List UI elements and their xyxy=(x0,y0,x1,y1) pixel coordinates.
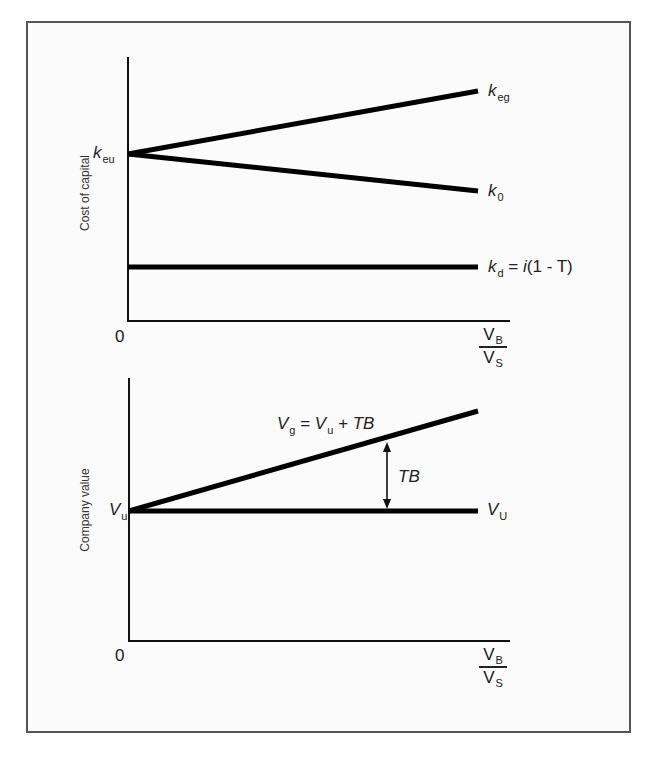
top-x-den-sub: S xyxy=(496,357,503,369)
top-x-num-sub: B xyxy=(496,334,503,346)
bottom-x-axis-label: VB VS xyxy=(478,646,508,687)
label-vg-v2: V xyxy=(315,414,326,433)
line-keg xyxy=(128,91,478,154)
bottom-x-den-main: V xyxy=(483,668,494,687)
label-vg-tail: + TB xyxy=(333,414,374,433)
label-vg-s1: g xyxy=(289,424,295,436)
label-k0-sub: 0 xyxy=(498,191,504,203)
label-keg: keg xyxy=(488,82,510,99)
label-kd-main: k xyxy=(488,257,497,276)
bottom-x-num-main: V xyxy=(483,645,494,664)
label-vu-main: V xyxy=(109,500,120,519)
bottom-origin-label: 0 xyxy=(115,646,124,666)
label-k0-main: k xyxy=(488,181,497,200)
label-keu-main: k xyxy=(93,143,102,162)
bottom-x-num-sub: B xyxy=(496,654,503,666)
label-vU-sub: U xyxy=(499,510,507,522)
chart-canvas xyxy=(0,0,652,758)
label-kd-eq: = xyxy=(508,257,523,276)
label-kd-sub: d xyxy=(498,267,504,279)
label-keg-main: k xyxy=(488,81,497,100)
top-x-den-main: V xyxy=(483,348,494,367)
label-vu-sub: u xyxy=(121,510,127,522)
label-vU-main: V xyxy=(487,500,498,519)
label-kd-tail: (1 - T) xyxy=(527,257,573,276)
label-k0: k0 xyxy=(488,182,504,199)
label-keu: keu xyxy=(93,144,115,161)
top-x-axis-label: VB VS xyxy=(478,326,508,367)
bottom-x-den-sub: S xyxy=(496,677,503,689)
line-k0 xyxy=(128,154,478,191)
top-y-axis-label: Cost of capital xyxy=(78,150,92,236)
top-x-num-main: V xyxy=(483,325,494,344)
top-origin-label: 0 xyxy=(115,327,124,347)
label-vg-s2: u xyxy=(327,424,333,436)
bottom-y-axis-label: Company value xyxy=(78,467,92,553)
label-kd: kd = i(1 - T) xyxy=(488,258,573,275)
label-tb: TB xyxy=(398,468,420,485)
label-vg-mid: = xyxy=(295,414,314,433)
label-vg-v1: V xyxy=(277,414,288,433)
tb-arrow-icon xyxy=(383,442,391,509)
label-keg-sub: eg xyxy=(498,91,510,103)
label-vu-intercept: Vu xyxy=(109,501,127,518)
label-keu-sub: eu xyxy=(103,153,115,165)
label-vU: VU xyxy=(487,501,507,518)
label-vg-equation: Vg = Vu + TB xyxy=(277,415,374,432)
